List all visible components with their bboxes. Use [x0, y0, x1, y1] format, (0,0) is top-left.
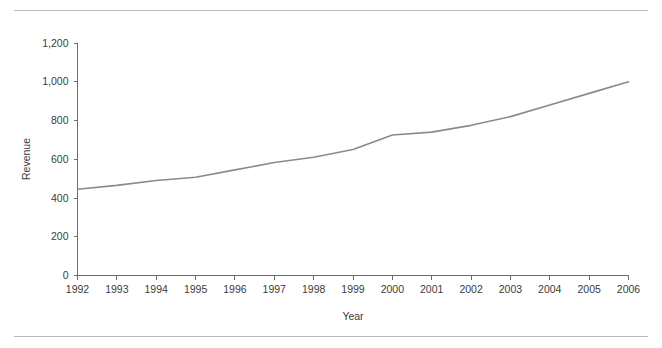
y-tick-label: 400 [51, 192, 69, 204]
x-tick-label-group: 1992199319941995199619971998199920002001… [66, 283, 641, 295]
x-tick-label: 2003 [499, 283, 523, 295]
x-tick-label: 1998 [302, 283, 326, 295]
y-tick-label: 1,200 [42, 37, 68, 49]
x-tick-label: 2004 [538, 283, 562, 295]
x-tick-label: 1995 [184, 283, 208, 295]
x-tick-label: 1997 [263, 283, 287, 295]
rule-bottom [14, 336, 648, 337]
y-tick-label: 200 [51, 230, 69, 242]
x-axis-title: Year [342, 310, 364, 322]
y-tick-group [74, 43, 78, 276]
x-tick-label: 2005 [577, 283, 601, 295]
x-tick-label: 2000 [381, 283, 405, 295]
y-tick-label: 0 [63, 269, 69, 281]
x-tick-label: 2006 [617, 283, 641, 295]
revenue-series-line [78, 82, 629, 190]
y-axis-title: Revenue [20, 138, 32, 180]
x-tick-label: 1993 [105, 283, 129, 295]
x-tick-label: 1994 [145, 283, 169, 295]
x-tick-label: 2002 [459, 283, 483, 295]
y-axis: 02004006008001,0001,200 Revenue [20, 37, 78, 282]
figure-container: 02004006008001,0001,200 Revenue 19921993… [0, 0, 662, 348]
x-tick-label: 1996 [223, 283, 247, 295]
x-tick-group [78, 276, 629, 280]
y-tick-label: 600 [51, 153, 69, 165]
x-tick-label: 2001 [420, 283, 444, 295]
y-tick-label: 1,000 [42, 75, 68, 87]
x-axis: 1992199319941995199619971998199920002001… [66, 276, 641, 323]
x-tick-label: 1999 [341, 283, 365, 295]
y-tick-label: 800 [51, 114, 69, 126]
x-tick-label: 1992 [66, 283, 90, 295]
plot-area: 02004006008001,0001,200 Revenue 19921993… [0, 0, 662, 348]
revenue-line-chart: 02004006008001,0001,200 Revenue 19921993… [0, 0, 662, 348]
y-tick-label-group: 02004006008001,0001,200 [42, 37, 68, 282]
